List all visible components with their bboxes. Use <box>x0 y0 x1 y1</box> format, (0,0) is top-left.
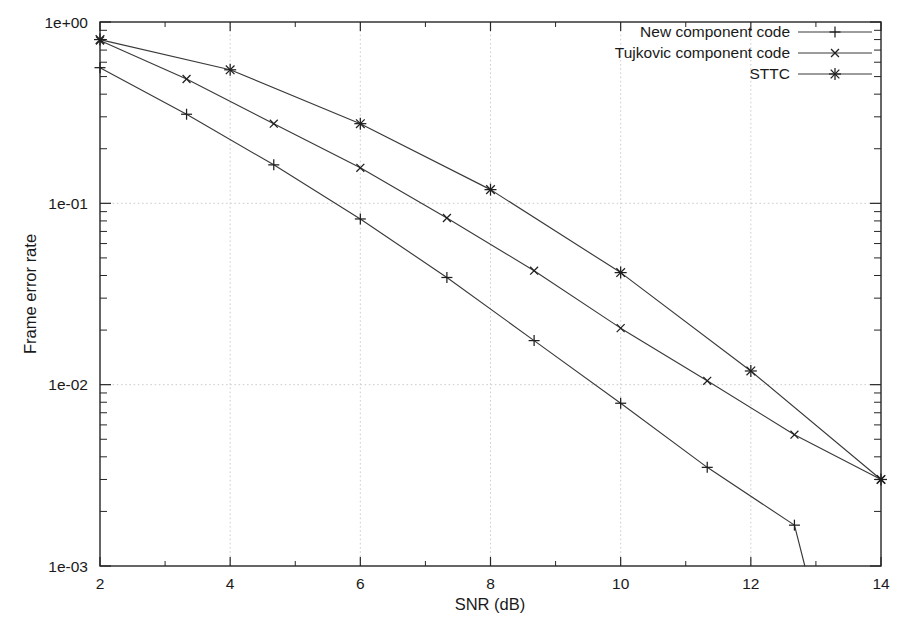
x-tick-label: 10 <box>612 575 630 592</box>
x-axis-title: SNR (dB) <box>455 595 526 613</box>
data-point-marker-star <box>875 473 887 485</box>
x-tick-label: 12 <box>742 575 759 592</box>
x-tick-label: 4 <box>226 575 235 592</box>
tick-labels: 24681012141e+001e-011e-021e-03 <box>44 14 890 593</box>
data-point-marker-plus <box>830 27 841 38</box>
gridlines <box>100 22 881 566</box>
frame-error-rate-chart: 24681012141e+001e-011e-021e-03 New compo… <box>0 0 906 619</box>
series-new-component-code <box>95 62 805 566</box>
y-tick-label: 1e-02 <box>48 376 88 393</box>
chart-figure: 24681012141e+001e-011e-021e-03 New compo… <box>0 0 906 619</box>
data-point-marker-plus <box>789 520 800 531</box>
data-point-marker-plus <box>355 213 366 224</box>
data-point-marker-plus <box>702 462 713 473</box>
data-point-marker-star <box>354 118 366 130</box>
legend-label: STTC <box>750 65 790 82</box>
data-point-marker-plus <box>95 62 106 73</box>
y-tick-label: 1e-01 <box>48 195 88 212</box>
data-point-marker-cross <box>530 267 538 275</box>
chart-legend: New component codeTujkovic component cod… <box>615 23 872 82</box>
data-point-marker-star <box>615 267 627 279</box>
x-tick-label: 6 <box>356 575 365 592</box>
legend-label: Tujkovic component code <box>615 44 790 61</box>
legend-entry-2: STTC <box>750 65 872 82</box>
data-point-marker-plus <box>268 159 279 170</box>
data-point-marker-cross <box>270 120 278 128</box>
y-axis-title: Frame error rate <box>21 234 39 354</box>
data-point-marker-plus <box>181 109 192 120</box>
x-tick-label: 14 <box>872 575 890 592</box>
series-line <box>100 68 805 566</box>
legend-entry-0: New component code <box>640 23 872 40</box>
x-tick-label: 2 <box>96 575 105 592</box>
y-tick-label: 1e+00 <box>44 14 88 31</box>
data-point-marker-star <box>745 365 757 377</box>
data-point-marker-cross <box>703 377 711 385</box>
y-tick-label: 1e-03 <box>48 558 88 575</box>
x-tick-label: 8 <box>486 575 495 592</box>
data-point-marker-plus <box>441 272 452 283</box>
series-tujkovic-component-code <box>96 37 885 484</box>
data-point-marker-star <box>224 64 236 76</box>
legend-entry-1: Tujkovic component code <box>615 44 872 61</box>
data-point-marker-cross <box>790 431 798 439</box>
data-point-marker-star <box>485 184 497 196</box>
data-point-marker-plus <box>615 398 626 409</box>
data-point-marker-plus <box>529 335 540 346</box>
legend-label: New component code <box>640 23 790 40</box>
data-point-marker-star <box>829 68 841 80</box>
data-point-marker-cross <box>183 75 191 83</box>
data-point-marker-star <box>94 34 106 46</box>
data-point-marker-cross <box>443 214 451 222</box>
